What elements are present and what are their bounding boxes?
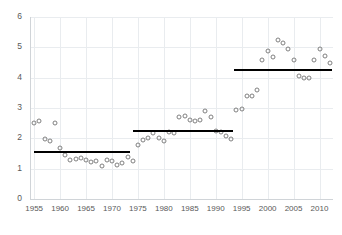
x-axis-tick-label: 1995 bbox=[233, 205, 251, 213]
x-axis-tick-label: 1985 bbox=[181, 205, 199, 213]
x-axis-tick-label: 1975 bbox=[129, 205, 147, 213]
x-axis-tick-label: 1960 bbox=[51, 205, 69, 213]
x-axis-tick-label: 1990 bbox=[207, 205, 225, 213]
x-axis-tick-label: 1955 bbox=[25, 205, 43, 213]
x-axis-tick-label: 2010 bbox=[311, 205, 329, 213]
chart-container: 0123456 19551960196519701975198019851990… bbox=[0, 0, 342, 235]
x-axis-tick-label: 1970 bbox=[103, 205, 121, 213]
x-axis-tick-label: 2005 bbox=[285, 205, 303, 213]
x-axis-tick-labels: 1955196019651970197519801985199019952000… bbox=[0, 0, 342, 235]
x-axis-tick-label: 2000 bbox=[259, 205, 277, 213]
x-axis-tick-label: 1980 bbox=[155, 205, 173, 213]
x-axis-tick-label: 1965 bbox=[77, 205, 95, 213]
